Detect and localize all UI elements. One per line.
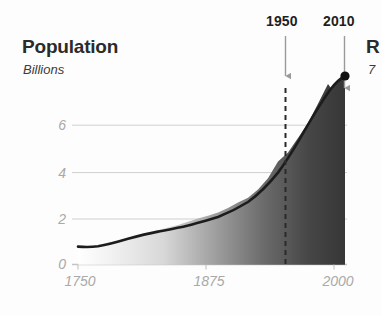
x-tick-label-2000: 2000 (321, 273, 353, 289)
chart-canvas: 6 4 2 0 1750 1875 2000 (0, 0, 382, 316)
population-chart-figure: Population Billions R 7 1950 2010 (0, 0, 382, 316)
y-tick-label-4: 4 (58, 165, 66, 181)
population-area (78, 76, 345, 265)
x-tick-label-1750: 1750 (64, 273, 95, 289)
y-tick-label-0: 0 (58, 256, 66, 272)
y-tick-label-2: 2 (57, 211, 66, 227)
endpoint-marker-2010 (340, 71, 349, 80)
y-tick-label-6: 6 (58, 117, 66, 133)
x-axis-ticks (78, 265, 334, 270)
x-tick-label-1875: 1875 (193, 273, 224, 289)
